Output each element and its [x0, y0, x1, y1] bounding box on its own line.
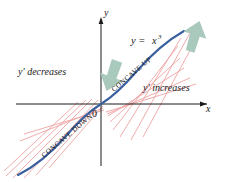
tangent-line — [6, 100, 86, 176]
y-axis-label: y — [103, 7, 109, 18]
concavity-figure: x y 0 y = x 3 y′ decreases y′ increases … — [0, 0, 227, 182]
up-left-arrow — [178, 17, 211, 55]
y-prime-increases-label: y′ increases — [142, 82, 190, 93]
tangent-lines-left — [4, 99, 104, 178]
equation-lhs: y = — [130, 35, 145, 46]
equation-exponent: 3 — [157, 33, 162, 41]
tangent-line — [13, 99, 92, 178]
y-axis-arrowhead — [99, 17, 104, 24]
equation-label: y = x 3 — [130, 33, 162, 46]
equation-base: x — [151, 35, 157, 46]
y-prime-decreases-label: y′ decreases — [17, 66, 66, 77]
arrow-shape — [178, 17, 211, 55]
x-axis-label: x — [205, 103, 211, 114]
figure-canvas: x y 0 y = x 3 y′ decreases y′ increases … — [0, 0, 227, 182]
